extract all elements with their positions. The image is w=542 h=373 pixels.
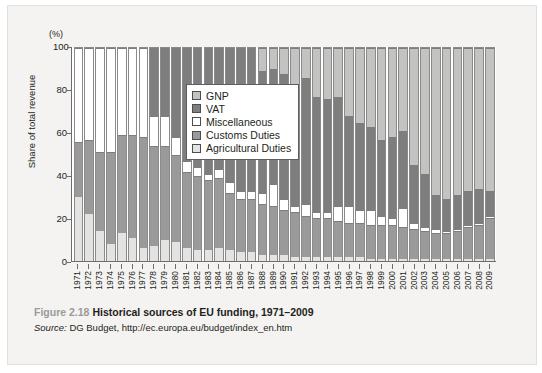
bar-segment: [464, 48, 472, 191]
x-tick-1973: 1973: [94, 264, 104, 308]
bar-2003: [420, 47, 430, 261]
bar-segment: [454, 259, 462, 261]
x-tick-label: 1982: [192, 271, 202, 290]
x-tick-1988: 1988: [257, 264, 267, 308]
bar-segment: [334, 221, 342, 257]
x-tick-1995: 1995: [333, 264, 343, 308]
bar-segment: [324, 257, 332, 261]
bar-segment: [454, 48, 462, 195]
bar-segment: [475, 48, 483, 189]
bar-segment: [140, 48, 148, 137]
bar-1993: [312, 47, 322, 261]
bar-segment: [280, 210, 288, 255]
x-tick-label: 1986: [235, 271, 245, 290]
bar-segment: [280, 48, 288, 74]
x-tick-label: 1999: [376, 271, 386, 290]
x-tick-label: 1988: [257, 271, 267, 290]
x-tick-mark: [88, 264, 89, 269]
bar-1995: [333, 47, 343, 261]
bar-segment: [226, 193, 234, 251]
bar-segment: [259, 204, 267, 255]
bar-segment: [194, 176, 202, 251]
bar-segment: [399, 227, 407, 259]
x-tick-label: 1975: [116, 271, 126, 290]
x-tick-mark: [370, 264, 371, 269]
x-tick-1978: 1978: [149, 264, 159, 308]
bar-segment: [150, 246, 158, 261]
x-tick-label: 1972: [83, 271, 93, 290]
bar-segment: [410, 259, 418, 261]
bar-segment: [161, 240, 169, 261]
x-tick-mark: [435, 264, 436, 269]
source-label: Source:: [34, 322, 67, 333]
x-tick-2004: 2004: [430, 264, 440, 308]
bar-2004: [431, 47, 441, 261]
bar-segment: [378, 225, 386, 259]
bar-segment: [183, 248, 191, 261]
bar-segment: [302, 204, 310, 217]
caption-source-line: Source: DG Budget, http://ec.europa.eu/b…: [34, 322, 514, 333]
x-tick-mark: [240, 264, 241, 269]
bar-segment: [237, 199, 245, 252]
x-tick-label: 2001: [398, 271, 408, 290]
x-tick-label: 2003: [419, 271, 429, 290]
x-tick-label: 1990: [278, 271, 288, 290]
y-tick-label: 0: [53, 256, 67, 267]
x-tick-2007: 2007: [463, 264, 473, 308]
y-tick-label: 40: [53, 170, 67, 181]
x-tick-1993: 1993: [311, 264, 321, 308]
bar-2007: [463, 47, 473, 261]
bar-segment: [129, 238, 137, 261]
bar-segment: [389, 48, 397, 137]
bar-segment: [172, 155, 180, 242]
x-tick-mark: [349, 264, 350, 269]
bar-segment: [475, 189, 483, 223]
bar-segment: [421, 259, 429, 261]
bar-segment: [194, 250, 202, 261]
bar-segment: [291, 257, 299, 261]
x-tick-1975: 1975: [116, 264, 126, 308]
x-tick-1980: 1980: [170, 264, 180, 308]
bar-segment: [140, 248, 148, 261]
x-tick-1985: 1985: [224, 264, 234, 308]
bar-segment: [161, 48, 169, 116]
bar-segment: [356, 257, 364, 261]
bar-segment: [270, 48, 278, 69]
bar-segment: [367, 259, 375, 261]
bar-segment: [486, 259, 494, 261]
bar-segment: [226, 250, 234, 261]
x-tick-mark: [186, 264, 187, 269]
bar-segment: [302, 48, 310, 78]
bar-1979: [160, 47, 170, 261]
bar-2005: [442, 47, 452, 261]
x-tick-mark: [153, 264, 154, 269]
x-tick-label: 1996: [344, 271, 354, 290]
bar-segment: [345, 223, 353, 257]
bar-segment: [313, 257, 321, 261]
x-tick-label: 2002: [409, 271, 419, 290]
bar-segment: [389, 137, 397, 218]
bar-segment: [454, 231, 462, 259]
figure-title: Historical sources of EU funding, 1971–2…: [92, 306, 313, 318]
bar-segment: [205, 180, 213, 250]
bar-segment: [334, 48, 342, 97]
bar-segment: [150, 48, 158, 116]
x-tick-label: 1987: [246, 271, 256, 290]
x-tick-1979: 1979: [159, 264, 169, 308]
x-tick-mark: [316, 264, 317, 269]
bar-segment: [172, 242, 180, 261]
bar-segment: [324, 218, 332, 256]
x-tick-label: 1978: [148, 271, 158, 290]
x-tick-mark: [77, 264, 78, 269]
bar-segment: [75, 197, 83, 261]
x-tick-label: 1979: [159, 271, 169, 290]
x-tick-1974: 1974: [105, 264, 115, 308]
bar-segment: [313, 218, 321, 256]
bar-segment: [334, 257, 342, 261]
bar-segment: [432, 48, 440, 195]
legend-item-agricultural-duties: Agricultural Duties: [192, 142, 291, 155]
bar-1980: [171, 47, 181, 261]
bar-segment: [270, 184, 278, 205]
bar-segment: [118, 233, 126, 261]
x-tick-2006: 2006: [452, 264, 462, 308]
